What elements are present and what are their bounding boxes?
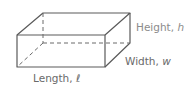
length-label-text: Length, <box>33 72 76 84</box>
width-label: Width, w <box>125 56 171 67</box>
prism-drawing <box>0 0 194 89</box>
width-label-text: Width, <box>125 55 162 67</box>
front-face <box>17 35 105 67</box>
height-variable: h <box>177 21 184 33</box>
height-label-text: Height, <box>136 21 177 33</box>
width-variable: w <box>162 55 171 67</box>
top-face <box>17 13 130 35</box>
length-label: Length, ℓ <box>33 73 80 84</box>
height-label: Height, h <box>136 22 184 33</box>
length-variable: ℓ <box>76 72 80 84</box>
rectangular-prism-diagram: Height, h Width, w Length, ℓ <box>0 0 194 89</box>
